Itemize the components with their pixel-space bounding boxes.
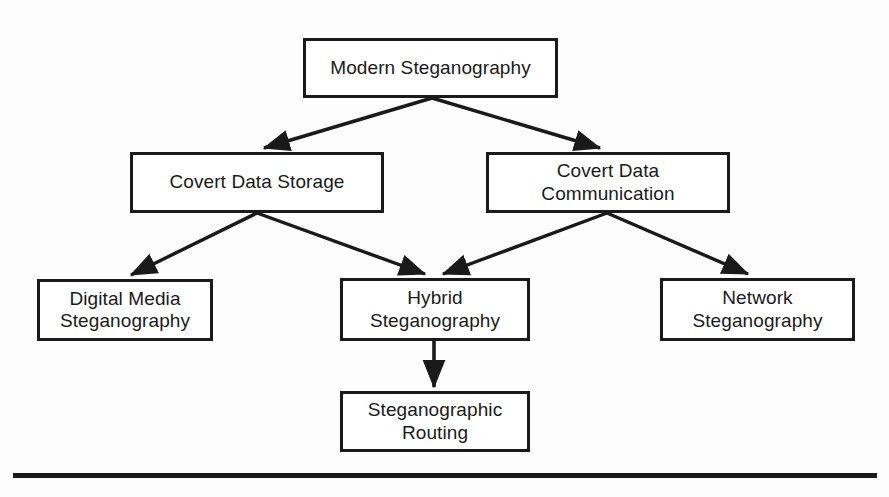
node-covert-data-storage[interactable]: Covert Data Storage [130,152,384,213]
node-modern-steganography-label: Modern Steganography [324,57,537,79]
edge-covert-storage-to-hybrid [257,213,425,274]
footer-divider-rule [13,473,877,478]
edge-covert-communication-to-network [607,213,748,274]
edge-covert-communication-to-hybrid [443,213,607,274]
diagram-canvas: Modern Steganography Covert Data Storage… [0,0,889,497]
node-digital-media-steganography-label: Digital Media Steganography [54,288,196,333]
node-network-steganography-label: Network Steganography [686,287,828,332]
node-network-steganography[interactable]: Network Steganography [660,278,855,341]
node-digital-media-steganography[interactable]: Digital Media Steganography [37,279,213,341]
node-steganographic-routing-label: Steganographic Routing [362,399,509,444]
node-covert-data-storage-label: Covert Data Storage [163,171,350,193]
edge-covert-storage-to-digital-media [131,213,257,275]
edge-root-to-covert-communication [432,98,600,148]
node-covert-data-communication-label: Covert Data Communication [535,160,680,205]
node-steganographic-routing[interactable]: Steganographic Routing [340,391,530,452]
node-hybrid-steganography-label: Hybrid Steganography [364,287,506,332]
node-modern-steganography[interactable]: Modern Steganography [303,38,558,98]
edge-root-to-covert-storage [264,98,432,148]
node-hybrid-steganography[interactable]: Hybrid Steganography [340,278,530,341]
node-covert-data-communication[interactable]: Covert Data Communication [486,152,730,213]
